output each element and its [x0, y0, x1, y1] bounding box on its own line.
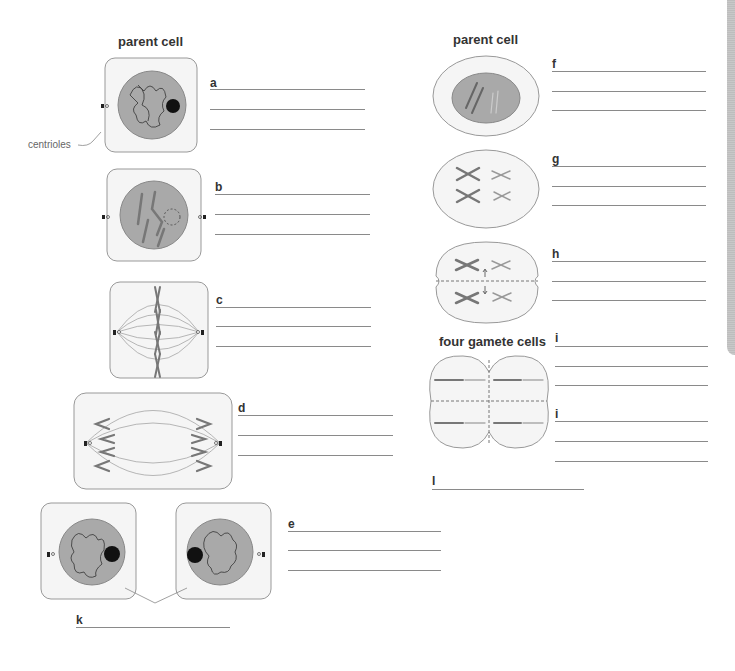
answer-line-i1c[interactable]	[555, 385, 708, 386]
label-l: l	[432, 474, 435, 488]
answer-line-g1[interactable]	[552, 166, 706, 167]
answer-line-i2b[interactable]	[555, 441, 708, 442]
answer-line-i2c[interactable]	[555, 461, 708, 462]
cell-g-meiosis-i	[432, 148, 542, 233]
answer-line-h3[interactable]	[552, 300, 706, 301]
answer-line-f3[interactable]	[552, 110, 706, 111]
right-parent-cell-title: parent cell	[453, 32, 518, 47]
cell-h-meiosis-division	[432, 241, 542, 326]
label-g: g	[552, 152, 559, 166]
answer-line-g3[interactable]	[552, 205, 706, 206]
label-e: e	[288, 517, 295, 531]
four-gamete-cells-diagram	[427, 352, 552, 452]
label-i-2: i	[555, 407, 558, 421]
answer-line-e1[interactable]	[288, 531, 441, 532]
answer-line-h1[interactable]	[552, 261, 706, 262]
four-gamete-cells-title: four gamete cells	[439, 334, 546, 349]
answer-line-f2[interactable]	[552, 91, 706, 92]
label-f: f	[552, 57, 556, 71]
answer-line-g2[interactable]	[552, 186, 706, 187]
answer-line-k[interactable]	[76, 627, 230, 628]
answer-line-l[interactable]	[432, 489, 584, 490]
answer-line-i1a[interactable]	[555, 346, 708, 347]
answer-line-f1[interactable]	[552, 71, 706, 72]
answer-line-i2a[interactable]	[555, 421, 708, 422]
answer-line-e3[interactable]	[288, 570, 441, 571]
answer-line-e2[interactable]	[288, 550, 441, 551]
label-h: h	[552, 247, 559, 261]
answer-line-h2[interactable]	[552, 281, 706, 282]
answer-line-i1b[interactable]	[555, 366, 708, 367]
label-k: k	[76, 613, 83, 627]
label-i-1: i	[555, 331, 558, 345]
cell-f-meiosis-parent	[432, 53, 542, 141]
